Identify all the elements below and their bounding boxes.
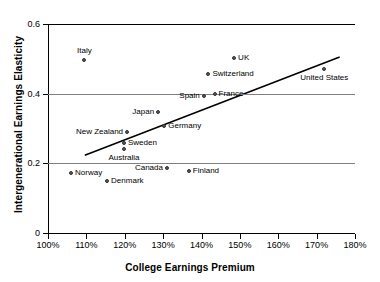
- x-axis-tick: [202, 234, 203, 239]
- y-axis-tick-label: 0.4: [0, 90, 40, 99]
- data-point-label: Japan: [132, 108, 154, 116]
- data-point-label: UK: [238, 54, 249, 62]
- y-axis-tick: [43, 94, 48, 95]
- x-axis-tick-label: 120%: [105, 241, 145, 250]
- data-point-marker: [69, 171, 73, 175]
- y-axis-title: Intergenerational Earnings Elasticity: [13, 5, 24, 245]
- x-axis-tick: [125, 234, 126, 239]
- data-point-label: Norway: [75, 169, 102, 177]
- data-point-label: New Zealand: [76, 128, 123, 136]
- data-point-marker: [187, 169, 191, 173]
- x-axis-tick-label: 140%: [182, 241, 222, 250]
- x-axis-tick-label: 170%: [297, 241, 337, 250]
- data-point-marker: [202, 94, 206, 98]
- y-axis-tick: [43, 163, 48, 164]
- x-axis-tick: [48, 234, 49, 239]
- data-point-marker: [206, 72, 210, 76]
- x-axis-tick: [278, 234, 279, 239]
- y-axis-tick-label: 0: [0, 229, 40, 238]
- data-point-label: Finland: [193, 167, 219, 175]
- data-point-label: United States: [300, 74, 348, 82]
- data-point-marker: [122, 147, 126, 151]
- data-point-label: France: [219, 90, 244, 98]
- gridline-y: [48, 163, 355, 164]
- x-axis-tick: [240, 234, 241, 239]
- data-point-label: Australia: [108, 154, 139, 162]
- data-point-marker: [122, 141, 126, 145]
- data-point-label: Switzerland: [212, 70, 253, 78]
- y-axis-tick-label: 0.6: [0, 20, 40, 29]
- data-point-marker: [213, 92, 217, 96]
- x-axis-tick-label: 110%: [66, 241, 106, 250]
- gridline-y: [48, 24, 355, 25]
- x-axis-tick-label: 180%: [335, 241, 375, 250]
- x-axis-tick: [355, 234, 356, 239]
- data-point-marker: [125, 130, 129, 134]
- data-point-label: Denmark: [111, 177, 143, 185]
- data-point-label: Spain: [179, 92, 199, 100]
- y-axis-tick-label: 0.2: [0, 159, 40, 168]
- x-axis-tick-label: 160%: [258, 241, 298, 250]
- data-point-marker: [156, 110, 160, 114]
- x-axis-tick: [317, 234, 318, 239]
- data-point-label: Canada: [135, 164, 163, 172]
- x-axis-tick-label: 150%: [220, 241, 260, 250]
- data-point-marker: [165, 166, 169, 170]
- y-axis-tick: [43, 24, 48, 25]
- scatter-chart: Intergenerational Earnings Elasticity Co…: [0, 0, 380, 282]
- x-axis-tick-label: 130%: [143, 241, 183, 250]
- data-point-marker: [82, 58, 86, 62]
- data-point-marker: [232, 56, 236, 60]
- data-point-label: Italy: [77, 47, 92, 55]
- x-axis-tick-label: 100%: [28, 241, 68, 250]
- data-point-marker: [322, 67, 326, 71]
- data-point-label: Sweden: [128, 139, 157, 147]
- x-axis-title: College Earnings Premium: [0, 262, 380, 273]
- data-point-label: Germany: [168, 122, 201, 130]
- data-point-marker: [105, 179, 109, 183]
- x-axis-tick: [86, 234, 87, 239]
- plot-area: ItalyUKUnited StatesSwitzerlandFranceSpa…: [48, 24, 355, 233]
- x-axis-tick: [163, 234, 164, 239]
- data-point-marker: [162, 124, 166, 128]
